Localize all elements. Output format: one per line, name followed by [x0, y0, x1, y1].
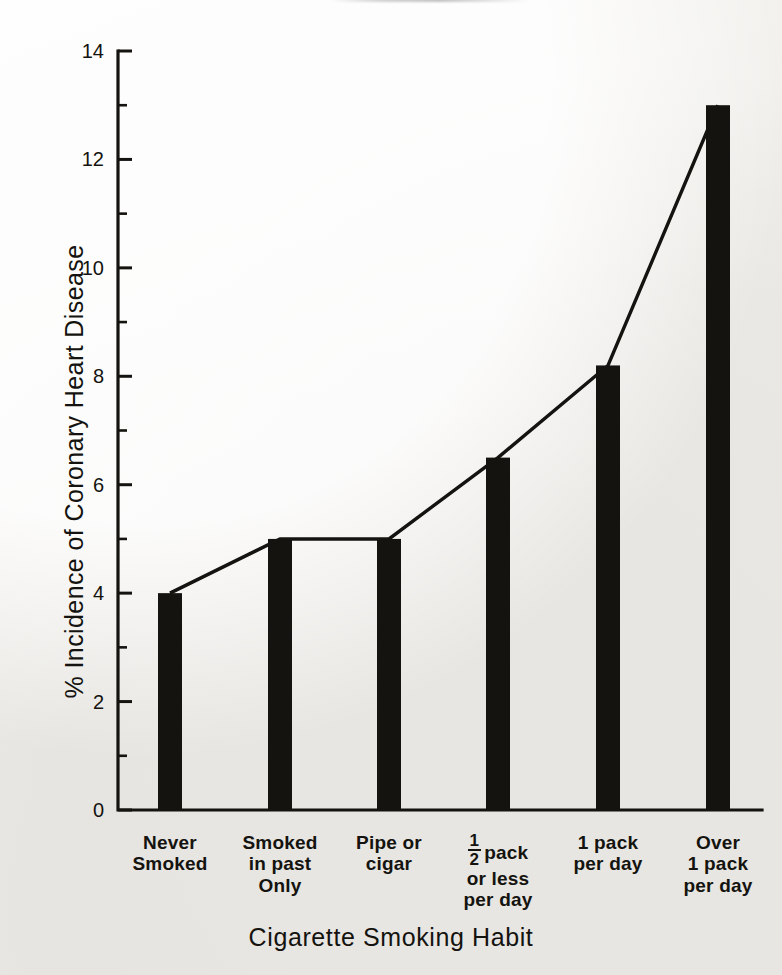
chart-bars	[158, 105, 730, 810]
chart-figure: 02468101214 NeverSmokedSmokedin pastOnly…	[0, 0, 782, 975]
chart-axes	[118, 51, 762, 810]
y-axis-title: % Incidence of Coronary Heart Disease	[60, 212, 89, 732]
half-fraction-glyph: 12	[468, 832, 482, 868]
y-tick-label: 12	[60, 149, 104, 169]
y-tick-label: 0	[60, 800, 104, 820]
x-category-label: Over1 packper day	[652, 832, 782, 896]
y-tick-label: 14	[60, 41, 104, 61]
chart-plot-area	[0, 0, 782, 975]
chart-trend-line	[170, 105, 718, 593]
x-axis-title: Cigarette Smoking Habit	[0, 923, 782, 952]
